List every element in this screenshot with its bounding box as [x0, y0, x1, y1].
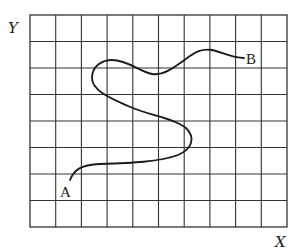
grid-path-diagram: Y X A B — [0, 0, 302, 252]
path-a-to-b — [70, 50, 244, 180]
point-b-label: B — [246, 51, 256, 67]
point-a-label: A — [60, 184, 71, 200]
x-axis-label: X — [274, 233, 287, 251]
y-axis-label: Y — [8, 19, 20, 37]
